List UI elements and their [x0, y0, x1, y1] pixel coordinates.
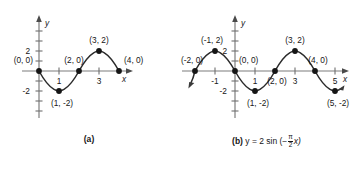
point-label-a-1-neg2: (1, -2): [51, 98, 73, 108]
equation-prefix: y = 2 sin (−: [245, 136, 287, 146]
x-ticklabel-a-3: 3: [97, 76, 102, 86]
point-b-1-neg2: [252, 88, 258, 94]
point-b-neg2-0: [192, 68, 198, 74]
equation-fraction: π2: [288, 134, 294, 148]
point-label-b-2-0: (2, 0): [267, 76, 287, 86]
point-label-b-1-neg2: (1, -2): [247, 98, 269, 108]
point-a-1-neg2: [56, 88, 62, 94]
point-a-2-0: [76, 68, 82, 74]
point-b-neg1-2: [212, 48, 218, 54]
x-axis-label-a: x: [121, 74, 127, 84]
point-b-2-0: [272, 68, 278, 74]
point-label-b-4-0: (4, 0): [308, 55, 328, 65]
x-ticklabel-b-3: 3: [293, 76, 298, 86]
x-axis-arrowhead-b: [342, 68, 349, 74]
equation-suffix: x): [294, 136, 301, 146]
caption-b-equation: y = 2 sin (−π2x): [245, 136, 301, 146]
point-b-3-2: [292, 48, 298, 54]
point-b-5-neg2: [332, 88, 338, 94]
y-ticklabel-b-neg2: -2: [220, 86, 228, 96]
y-axis-label-a: y: [44, 18, 50, 28]
point-label-b-neg1-2: (-1, 2): [201, 35, 223, 45]
point-label-b-3-2: (3, 2): [285, 35, 305, 45]
x-ticklabel-b-5: 5: [333, 76, 338, 86]
y-axis-arrowhead-b: [232, 15, 238, 22]
caption-b: (b) y = 2 sin (−π2x): [178, 134, 355, 148]
caption-b-label: (b): [232, 136, 243, 146]
y-axis-label-b: y: [240, 18, 246, 28]
graph-b: y x 2 -2 -1 1 3 5 (-2, 0) (-1, 2) (0, 0)…: [178, 0, 355, 134]
point-label-a-0-0: (0, 0): [14, 55, 34, 65]
point-label-a-2-0: (2, 0): [64, 55, 84, 65]
curve-left-arrowhead-b: [188, 82, 194, 89]
y-axis-arrowhead-a: [36, 15, 42, 22]
point-label-b-0-0: (0, 0): [239, 55, 259, 65]
panel-b: y x 2 -2 -1 1 3 5 (-2, 0) (-1, 2) (0, 0)…: [178, 0, 355, 170]
panel-a: y x 2 -2 1 3 (0, 0) (2, 0) (4, 0) (3, 2)…: [0, 0, 178, 170]
point-label-a-4-0: (4, 0): [124, 55, 144, 65]
point-a-3-2: [96, 48, 102, 54]
x-ticklabel-a-1: 1: [57, 76, 62, 86]
graph-a: y x 2 -2 1 3 (0, 0) (2, 0) (4, 0) (3, 2)…: [0, 0, 178, 134]
y-ticklabel-a-neg2: -2: [23, 86, 31, 96]
point-label-a-3-2: (3, 2): [89, 35, 109, 45]
point-b-4-0: [312, 68, 318, 74]
x-ticklabel-b-neg1: -1: [211, 76, 219, 86]
point-a-0-0: [36, 68, 42, 74]
y-ticklabel-b-2: 2: [222, 46, 227, 56]
point-label-b-5-neg2: (5, -2): [327, 98, 349, 108]
caption-a: (a): [0, 134, 178, 144]
x-ticklabel-b-1: 1: [253, 76, 258, 86]
point-b-0-0: [232, 68, 238, 74]
x-axis-arrowhead-a: [126, 68, 133, 74]
equation-denominator: 2: [288, 142, 294, 149]
x-axis-label-b: x: [342, 74, 348, 84]
figure-root: y x 2 -2 1 3 (0, 0) (2, 0) (4, 0) (3, 2)…: [0, 0, 355, 170]
point-label-b-neg2-0: (-2, 0): [181, 55, 203, 65]
